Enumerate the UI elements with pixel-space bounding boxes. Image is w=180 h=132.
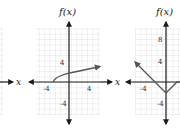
y-axis-label: f(x) xyxy=(155,6,173,17)
x-tick-neg4: -4 xyxy=(140,85,147,93)
y-axis-label: f(x) xyxy=(58,6,76,17)
y-tick-neg4: -4 xyxy=(60,100,67,108)
y-tick-4: 4 xyxy=(158,58,163,66)
graph-2: f(x) 8 4 -4 -4 xyxy=(126,6,180,124)
grid xyxy=(36,28,100,115)
x-tick-neg4: -4 xyxy=(43,85,50,93)
graph-1-x-label-group: x xyxy=(100,77,120,87)
x-axis-label: x xyxy=(115,77,120,87)
grid xyxy=(0,28,3,115)
y-tick-4: 4 xyxy=(60,59,65,67)
y-tick-neg4: -4 xyxy=(157,100,164,108)
graphs-canvas: x f(x) 4 -4 -4 4 x f(x) 8 4 -4 -4 xyxy=(0,0,180,132)
left-graph-fragment: x xyxy=(0,28,21,115)
x-axis-label: x xyxy=(16,77,21,87)
graph-1: f(x) 4 -4 -4 4 xyxy=(29,6,100,124)
y-tick-8: 8 xyxy=(158,36,162,44)
x-tick-4: 4 xyxy=(87,85,92,93)
